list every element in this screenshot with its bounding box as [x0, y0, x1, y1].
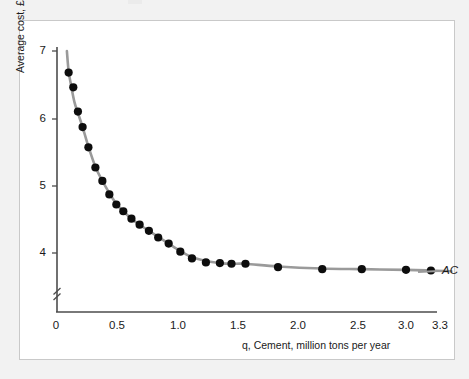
curve-label-leader-line	[418, 271, 439, 272]
data-point	[227, 260, 235, 268]
data-point	[188, 254, 196, 262]
x-tick-label-1-0: 1.0	[164, 319, 192, 331]
x-tick-label-2-0: 2.0	[284, 319, 312, 331]
x-tick-label-3-3: 3.3	[426, 319, 454, 331]
data-point	[216, 259, 224, 267]
data-point	[74, 108, 82, 116]
data-points-group	[65, 68, 436, 274]
average-cost-curve	[67, 51, 451, 271]
data-point	[154, 233, 162, 241]
data-point	[145, 227, 153, 235]
data-point	[98, 177, 106, 185]
data-point	[91, 163, 99, 171]
y-tick-label-5: 5	[32, 179, 46, 191]
data-point	[65, 68, 73, 76]
data-point	[318, 265, 326, 273]
y-tick-label-7: 7	[32, 44, 46, 56]
data-point	[84, 143, 92, 151]
data-point	[69, 83, 77, 91]
ac-curve-line	[67, 51, 451, 271]
data-point	[165, 239, 173, 247]
data-point	[358, 265, 366, 273]
x-tick-label-0: 0	[42, 319, 70, 331]
data-point	[105, 190, 113, 198]
data-point	[78, 123, 86, 131]
x-tick-label-2-5: 2.5	[344, 319, 372, 331]
data-point	[112, 200, 120, 208]
x-tick-label-1-5: 1.5	[224, 319, 252, 331]
scan-artifact	[128, 0, 142, 4]
data-point	[402, 266, 410, 274]
data-point	[176, 248, 184, 256]
chart-plot-area: Average cost, £ q, Cement, million tons …	[20, 21, 456, 361]
data-point	[119, 207, 127, 215]
data-point	[202, 258, 210, 266]
y-tick-label-6: 6	[32, 112, 46, 124]
curve-series-label: AC	[442, 264, 458, 276]
x-tick-label-0-5: 0.5	[103, 319, 131, 331]
data-point	[127, 215, 135, 223]
data-point	[136, 221, 144, 229]
y-tick-label-4: 4	[32, 246, 46, 258]
axes-group	[52, 47, 437, 312]
x-tick-label-3-0: 3.0	[392, 319, 420, 331]
average-cost-curve-chart	[20, 21, 456, 361]
x-axis-title: q, Cement, million tons per year	[242, 339, 390, 351]
data-point	[241, 260, 249, 268]
data-point	[274, 263, 282, 271]
y-axis-title: Average cost, £	[14, 0, 26, 73]
figure-frame: Average cost, £ q, Cement, million tons …	[19, 20, 455, 360]
